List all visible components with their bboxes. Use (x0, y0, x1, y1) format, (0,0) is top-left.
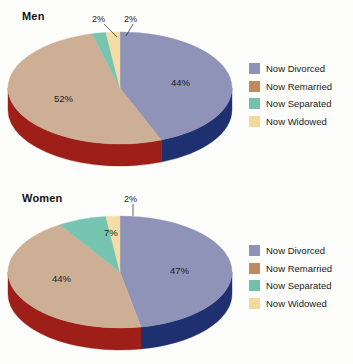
legend-label-remarried: Now Remarried (266, 263, 332, 274)
legend-label-widowed: Now Widowed (266, 116, 327, 127)
legend-swatch-remarried (249, 81, 260, 92)
slice-label-divorced: 44% (171, 77, 190, 88)
legend-men: Now Divorced Now Remarried Now Separated… (249, 62, 332, 128)
legend-item-widowed[interactable]: Now Widowed (249, 297, 332, 310)
legend-swatch-widowed (249, 298, 260, 309)
chart-panel-women: Women Now Divorced Now Remarried Now Sep… (0, 182, 353, 364)
legend-label-separated: Now Separated (266, 98, 331, 109)
legend-swatch-remarried (249, 263, 260, 274)
legend-swatch-separated (249, 98, 260, 109)
slice-label-separated: 2% (92, 14, 105, 24)
legend-women: Now Divorced Now Remarried Now Separated… (249, 244, 332, 310)
legend-item-remarried[interactable]: Now Remarried (249, 80, 332, 93)
legend-label-separated: Now Separated (266, 280, 331, 291)
legend-label-divorced: Now Divorced (266, 245, 325, 256)
slice-label-separated: 7% (104, 227, 118, 238)
legend-item-divorced[interactable]: Now Divorced (249, 244, 332, 257)
legend-swatch-divorced (249, 245, 260, 256)
slice-label-widowed: 2% (124, 194, 137, 204)
chart-panel-men: Men Now Divorced Now Remarried Now Separ… (0, 0, 353, 182)
slice-label-remarried: 44% (52, 273, 71, 284)
legend-item-remarried[interactable]: Now Remarried (249, 262, 332, 275)
legend-item-widowed[interactable]: Now Widowed (249, 115, 332, 128)
legend-label-remarried: Now Remarried (266, 81, 332, 92)
legend-item-separated[interactable]: Now Separated (249, 97, 332, 110)
slice-label-divorced: 47% (170, 265, 189, 276)
legend-swatch-divorced (249, 63, 260, 74)
legend-item-divorced[interactable]: Now Divorced (249, 62, 332, 75)
slice-label-widowed: 2% (124, 14, 137, 24)
slice-label-remarried: 52% (54, 93, 73, 104)
legend-label-divorced: Now Divorced (266, 63, 325, 74)
legend-item-separated[interactable]: Now Separated (249, 279, 332, 292)
legend-label-widowed: Now Widowed (266, 298, 327, 309)
legend-swatch-widowed (249, 116, 260, 127)
legend-swatch-separated (249, 280, 260, 291)
